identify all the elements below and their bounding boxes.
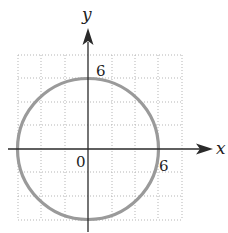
origin-label: 0 (76, 153, 86, 171)
y-tick-label: 6 (96, 62, 106, 80)
circle-graph: x y 6 6 0 (0, 0, 228, 233)
y-axis-label: y (81, 4, 92, 24)
x-axis-label: x (216, 138, 226, 158)
x-tick-label: 6 (159, 157, 169, 175)
